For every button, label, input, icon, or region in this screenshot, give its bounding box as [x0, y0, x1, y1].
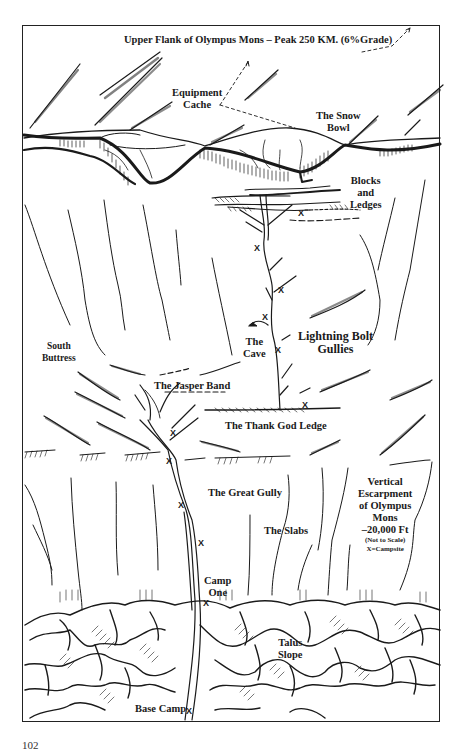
label-snow-bowl: The Snow Bowl — [316, 110, 361, 134]
campsite-marker: X — [203, 598, 209, 608]
label-the-slabs: The Slabs — [264, 525, 308, 537]
label-equipment-cache: Equipment Cache — [172, 87, 222, 111]
campsite-marker: X — [262, 312, 268, 322]
campsite-marker: X — [275, 345, 281, 355]
campsite-marker: X — [166, 456, 172, 466]
label-jasper-band: The Jasper Band — [154, 380, 230, 392]
campsite-marker: X — [186, 706, 192, 716]
label-the-cave: The Cave — [243, 336, 266, 360]
campsite-marker: X — [198, 538, 204, 548]
label-lightning-bolt-gullies: Lightning Bolt Gullies — [298, 330, 373, 356]
label-thank-god-ledge: The Thank God Ledge — [225, 420, 327, 432]
label-vertical-escarpment: Vertical Escarpment of Olympus Mons –20,… — [358, 476, 412, 554]
label-base-camp: Base Camp — [135, 703, 186, 715]
campsite-marker: X — [302, 400, 308, 410]
label-not-to-scale: (Not to Scale) — [358, 536, 412, 545]
legend-campsite: X=Campsite — [358, 545, 412, 554]
campsite-marker: X — [170, 428, 176, 438]
label-talus-slope: Talus Slope — [278, 637, 303, 661]
label-south-buttress: South Buttress — [42, 340, 76, 364]
campsite-marker: X — [254, 243, 260, 253]
label-blocks-and-ledges: Blocks and Ledges — [350, 175, 382, 211]
campsite-marker: X — [178, 500, 184, 510]
label-great-gully: The Great Gully — [208, 487, 282, 499]
page-number: 102 — [22, 739, 39, 751]
diagram-title: Upper Flank of Olympus Mons – Peak 250 K… — [124, 34, 392, 46]
campsite-marker: X — [298, 208, 304, 218]
label-camp-one: Camp One — [204, 575, 231, 599]
campsite-marker: X — [278, 285, 284, 295]
